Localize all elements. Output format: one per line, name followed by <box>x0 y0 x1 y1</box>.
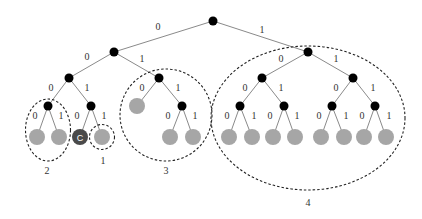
group-labels: 2 1 3 4 <box>45 155 311 208</box>
svg-text:0: 0 <box>33 110 38 121</box>
tree-node <box>371 102 380 111</box>
svg-text:1: 1 <box>387 110 392 121</box>
svg-text:1: 1 <box>260 24 265 35</box>
leaf-node <box>313 129 329 145</box>
svg-text:0: 0 <box>140 82 145 93</box>
tree-node <box>155 74 164 83</box>
root-node <box>209 17 218 26</box>
leaf-node <box>287 129 303 145</box>
tree-node <box>178 102 187 111</box>
leaf-node <box>51 129 67 145</box>
svg-text:1: 1 <box>59 110 64 121</box>
group-2-label: 2 <box>45 165 50 176</box>
leaf-node <box>244 129 260 145</box>
edge-labels: 0 1 0 1 0 1 0 1 0 1 0 1 0 1 0 1 0 1 0 1 … <box>33 21 392 121</box>
svg-text:0: 0 <box>225 110 230 121</box>
svg-text:1: 1 <box>102 110 107 121</box>
tree-node <box>110 48 119 57</box>
svg-text:0: 0 <box>166 110 171 121</box>
leaf-node <box>129 98 145 114</box>
svg-text:1: 1 <box>176 82 181 93</box>
svg-text:0: 0 <box>334 82 339 93</box>
leaf-node <box>29 129 45 145</box>
tree-node <box>87 102 96 111</box>
group-1-label: 1 <box>101 155 106 166</box>
svg-text:0: 0 <box>85 51 90 62</box>
tree-node <box>65 74 74 83</box>
svg-text:1: 1 <box>344 110 349 121</box>
special-node-label: C <box>77 133 84 143</box>
svg-text:1: 1 <box>371 82 376 93</box>
leaf-node <box>336 129 352 145</box>
svg-text:1: 1 <box>295 110 300 121</box>
tree-node <box>236 102 245 111</box>
svg-text:0: 0 <box>75 110 80 121</box>
svg-text:0: 0 <box>268 110 273 121</box>
leaf-node <box>221 129 237 145</box>
svg-text:0: 0 <box>49 82 54 93</box>
leaf-node <box>162 129 178 145</box>
leaf-node <box>356 129 372 145</box>
svg-text:0: 0 <box>156 21 161 32</box>
svg-text:1: 1 <box>85 82 90 93</box>
svg-text:1: 1 <box>252 110 257 121</box>
tree-diagram: 0 1 0 1 0 1 0 1 0 1 0 1 0 1 0 1 0 1 0 1 … <box>0 0 422 219</box>
svg-text:0: 0 <box>279 53 284 64</box>
tree-node <box>349 74 358 83</box>
group-4-label: 4 <box>306 197 311 208</box>
tree-node <box>258 74 267 83</box>
svg-text:1: 1 <box>193 110 198 121</box>
tree-node <box>44 102 53 111</box>
leaf-node <box>378 129 394 145</box>
leaf-node <box>185 129 201 145</box>
svg-text:0: 0 <box>243 82 248 93</box>
group-4-outline <box>211 46 405 190</box>
tree-node <box>304 48 313 57</box>
group-3-label: 3 <box>164 165 169 176</box>
tree-node <box>280 102 289 111</box>
svg-text:1: 1 <box>279 82 284 93</box>
svg-text:0: 0 <box>360 110 365 121</box>
svg-text:1: 1 <box>140 53 145 64</box>
svg-text:0: 0 <box>317 110 322 121</box>
leaf-node <box>265 129 281 145</box>
svg-text:1: 1 <box>334 53 339 64</box>
tree-node <box>328 102 337 111</box>
leaf-node <box>94 129 110 145</box>
